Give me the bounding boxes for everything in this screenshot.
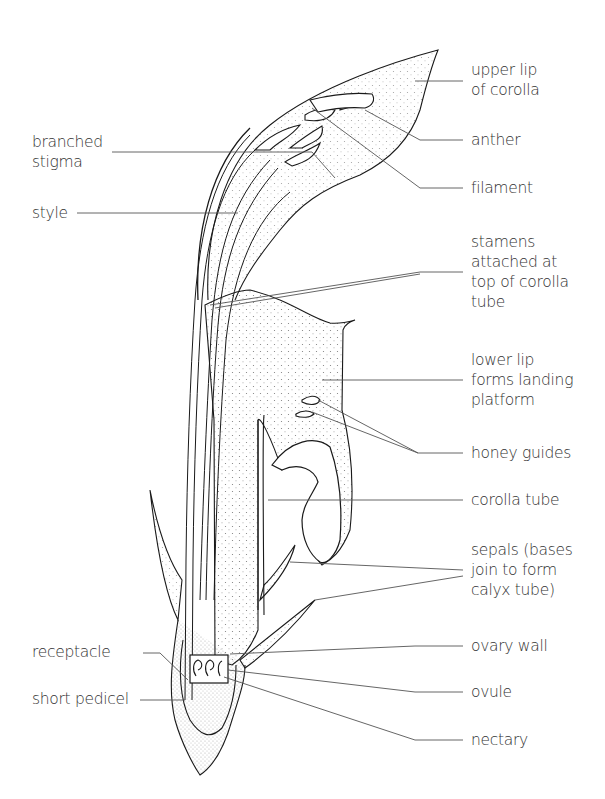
label-stamens: stamens attached at top of corolla tube [471, 232, 569, 312]
label-receptacle: receptacle [32, 642, 110, 662]
label-honey-guides: honey guides [471, 443, 571, 463]
label-filament: filament [471, 178, 533, 198]
label-ovule: ovule [471, 682, 512, 702]
label-nectary: nectary [471, 730, 528, 750]
label-branched-stigma: branched stigma [32, 132, 103, 172]
lower-lip-shape [272, 441, 341, 563]
label-anther: anther [471, 130, 520, 150]
label-style: style [32, 203, 68, 223]
label-corolla-tube: corolla tube [471, 490, 559, 510]
label-sepals: sepals (bases join to form calyx tube) [471, 540, 572, 600]
label-short-pedicel: short pedicel [32, 689, 129, 709]
label-ovary-wall: ovary wall [471, 636, 547, 656]
label-lower-lip: lower lip forms landing platform [471, 350, 573, 410]
label-upper-lip: upper lip of corolla [471, 60, 540, 100]
